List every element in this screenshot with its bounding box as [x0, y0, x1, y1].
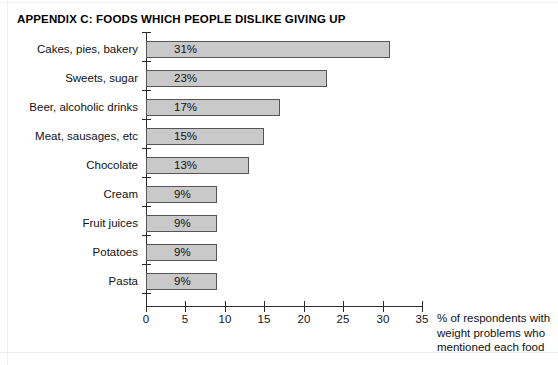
- bar-row: Potatoes9%: [0, 241, 558, 270]
- caption-line-1: % of respondents with: [437, 311, 558, 326]
- caption-line-3: mentioned each food: [437, 340, 558, 355]
- caption-line-2: weight problems who: [437, 326, 558, 341]
- value-tick-label: 5: [170, 313, 200, 326]
- bar-row: Beer, alcoholic drinks17%: [0, 96, 558, 125]
- category-label: Meat, sausages, etc: [35, 128, 138, 145]
- category-label: Fruit juices: [82, 215, 138, 232]
- value-tick-label: 0: [131, 313, 161, 326]
- category-tick: [142, 61, 151, 62]
- bar-row: Fruit juices9%: [0, 212, 558, 241]
- category-tick: [142, 90, 151, 91]
- bar: [146, 244, 217, 261]
- category-label: Chocolate: [86, 157, 138, 174]
- bar-row: Sweets, sugar23%: [0, 67, 558, 96]
- category-tick: [142, 264, 151, 265]
- category-tick: [142, 235, 151, 236]
- bar-row: Pasta9%: [0, 270, 558, 299]
- value-tick-label: 30: [368, 313, 398, 326]
- category-tick: [142, 206, 151, 207]
- category-tick: [142, 293, 151, 294]
- value-axis-caption: % of respondents with weight problems wh…: [437, 311, 558, 355]
- value-tick: [185, 301, 186, 312]
- category-label: Cakes, pies, bakery: [37, 41, 138, 58]
- bar-row: Meat, sausages, etc15%: [0, 125, 558, 154]
- bar-row: Chocolate13%: [0, 154, 558, 183]
- bar: [146, 41, 390, 58]
- category-label: Pasta: [109, 273, 138, 290]
- bar: [146, 70, 327, 87]
- category-tick: [142, 32, 151, 33]
- value-tick: [225, 301, 226, 312]
- category-label: Cream: [103, 186, 138, 203]
- bar-row: Cakes, pies, bakery31%: [0, 38, 558, 67]
- value-tick-label: 15: [249, 313, 279, 326]
- bar: [146, 186, 217, 203]
- value-axis-line: [146, 306, 423, 307]
- value-tick: [343, 301, 344, 312]
- category-label: Potatoes: [93, 244, 138, 261]
- bar: [146, 157, 249, 174]
- category-label: Beer, alcoholic drinks: [29, 99, 138, 116]
- value-tick-label: 10: [210, 313, 240, 326]
- value-tick-label: 25: [328, 313, 358, 326]
- chart-page: APPENDIX C: FOODS WHICH PEOPLE DISLIKE G…: [0, 0, 558, 365]
- bar: [146, 99, 280, 116]
- value-tick: [422, 301, 423, 312]
- value-tick-label: 20: [289, 313, 319, 326]
- category-label: Sweets, sugar: [65, 70, 138, 87]
- bar: [146, 128, 264, 145]
- value-tick: [304, 301, 305, 312]
- value-tick: [264, 301, 265, 312]
- value-tick: [146, 301, 147, 312]
- value-tick-label: 35: [407, 313, 437, 326]
- category-tick: [142, 148, 151, 149]
- category-tick: [142, 177, 151, 178]
- category-tick: [142, 119, 151, 120]
- bar: [146, 215, 217, 232]
- value-tick: [383, 301, 384, 312]
- bar: [146, 273, 217, 290]
- bar-row: Cream9%: [0, 183, 558, 212]
